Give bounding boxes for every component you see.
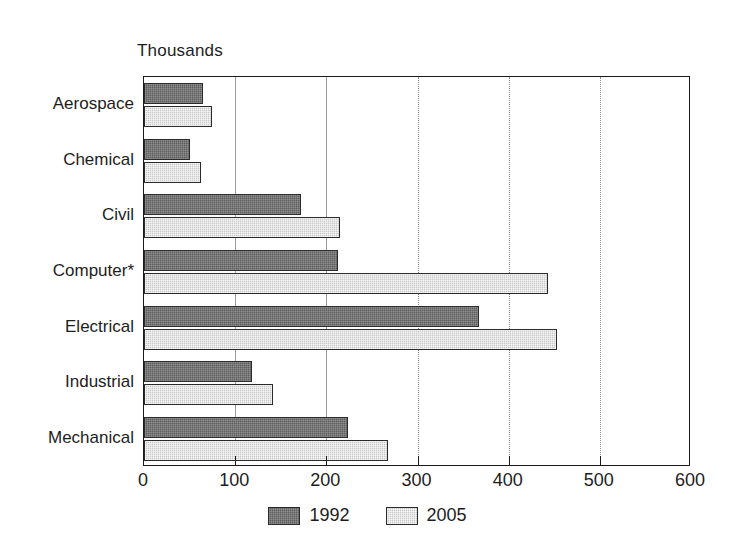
bar-mechanical-1992: [144, 417, 348, 438]
tick-mark-300: [418, 456, 419, 465]
category-label-computer: Computer*: [53, 261, 134, 281]
x-tick-label-0: 0: [138, 470, 148, 491]
bar-chemical-2005: [144, 162, 201, 183]
x-tick-label-300: 300: [401, 470, 431, 491]
legend-item-1992[interactable]: 1992: [268, 505, 349, 526]
tick-mark-500: [600, 456, 601, 465]
category-label-aerospace: Aerospace: [53, 94, 134, 114]
bar-computer-2005: [144, 273, 548, 294]
x-tick-label-200: 200: [310, 470, 340, 491]
chart-legend: 19922005: [0, 505, 735, 526]
category-label-mechanical: Mechanical: [48, 428, 134, 448]
bar-civil-2005: [144, 217, 340, 238]
axis-unit-caption: Thousands: [137, 41, 223, 61]
category-label-civil: Civil: [102, 205, 134, 225]
bar-computer-1992: [144, 250, 338, 271]
tick-mark-400: [509, 456, 510, 465]
tick-mark-200: [326, 456, 327, 465]
x-tick-label-600: 600: [675, 470, 705, 491]
x-tick-label-100: 100: [219, 470, 249, 491]
bar-civil-1992: [144, 194, 301, 215]
legend-item-2005[interactable]: 2005: [386, 505, 467, 526]
plot-area: [143, 76, 690, 466]
dark-gray-swatch: [268, 507, 300, 525]
bar-electrical-2005: [144, 329, 557, 350]
tick-mark-100: [235, 456, 236, 465]
legend-label-1992: 1992: [309, 505, 349, 526]
category-label-industrial: Industrial: [65, 372, 134, 392]
bar-aerospace-1992: [144, 83, 203, 104]
bar-mechanical-2005: [144, 440, 388, 461]
bar-industrial-2005: [144, 384, 273, 405]
bar-chemical-1992: [144, 139, 190, 160]
x-tick-label-500: 500: [584, 470, 614, 491]
light-gray-swatch: [386, 507, 418, 525]
x-tick-label-400: 400: [493, 470, 523, 491]
category-label-electrical: Electrical: [65, 317, 134, 337]
bar-industrial-1992: [144, 361, 252, 382]
bar-aerospace-2005: [144, 106, 212, 127]
x-axis-tick-labels: 0100200300400500600: [143, 470, 690, 498]
bar-electrical-1992: [144, 306, 479, 327]
legend-label-2005: 2005: [427, 505, 467, 526]
category-axis-labels: AerospaceChemicalCivilComputer*Electrica…: [0, 76, 134, 466]
chart-page: Thousands AerospaceChemicalCivilComputer…: [0, 0, 735, 554]
category-label-chemical: Chemical: [63, 150, 134, 170]
bars-layer: [144, 77, 689, 465]
